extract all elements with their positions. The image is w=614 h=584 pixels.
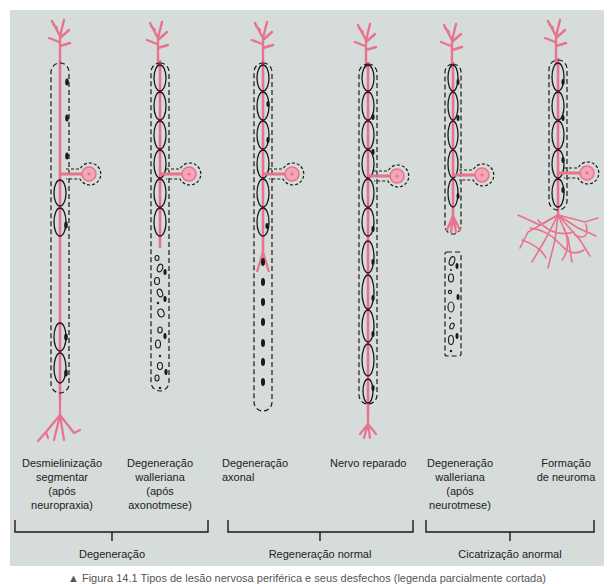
label-repaired-nerve: Nervo reparado bbox=[330, 456, 420, 470]
label-wallerian-axonotmesis: Degeneração walleriana (após axonotmese) bbox=[112, 456, 208, 512]
label-axonal-degeneration: Degeneração axonal bbox=[222, 456, 306, 484]
bracket-regeneracao-normal bbox=[228, 520, 413, 532]
label-neuroma-formation: Formação de neuroma bbox=[530, 456, 602, 484]
group-label-degeneracao: Degeneração bbox=[79, 548, 145, 560]
neuron-axonal-degeneration bbox=[252, 22, 304, 411]
group-label-regeneracao-normal: Regeneração normal bbox=[269, 548, 372, 560]
bracket-cicatrizacao-anormal bbox=[426, 520, 594, 532]
bracket-degeneracao bbox=[15, 520, 208, 532]
group-label-cicatrizacao-anormal: Cicatrização anormal bbox=[458, 548, 561, 560]
neuron-wallerian-axonotmesis bbox=[147, 22, 201, 391]
label-wallerian-neurotmesis: Degeneração walleriana (após neurotmese) bbox=[418, 456, 502, 512]
neuron-wallerian-neurotmesis bbox=[441, 24, 494, 356]
label-segmental-demyelination: Desmielinização segmentar (após neuropra… bbox=[14, 456, 110, 512]
neuron-neuroma-formation bbox=[518, 20, 599, 268]
figure-caption: ▲ Figura 14.1 Tipos de lesão nervosa per… bbox=[0, 572, 614, 584]
neuroma-tangle bbox=[518, 215, 598, 268]
group-brackets bbox=[15, 520, 594, 541]
neuron-repaired-nerve bbox=[355, 24, 409, 438]
neuron-segmental-demyelination bbox=[38, 20, 101, 441]
